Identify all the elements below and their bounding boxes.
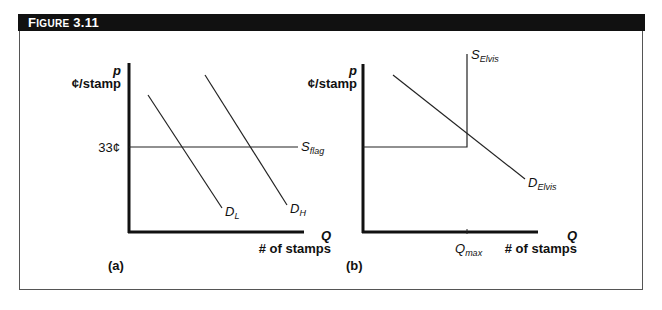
demand-low-label: DL [225,204,239,221]
supply-elvis-line [363,54,467,147]
demand-low-line [148,95,222,208]
y-axis-unit-a: ¢/stamp [72,76,121,91]
panel-a-caption: (a) [108,258,124,273]
x-axis-unit-a: # of stamps [259,241,331,256]
demand-high-line [205,75,287,205]
y-axis-unit-b: ¢/stamp [308,76,357,91]
price-tick-33: 33¢ [98,140,120,155]
demand-elvis-line [393,75,525,179]
panel-a: p ¢/stamp 33¢ Sflag DL DH Q # of stamps … [72,63,331,273]
demand-high-label: DH [290,201,306,218]
supply-elvis-label: SElvis [471,47,499,64]
panel-b-caption: (b) [346,258,363,273]
q-max-label: Qmax [455,241,483,258]
figure-diagrams: p ¢/stamp 33¢ Sflag DL DH Q # of stamps … [0,0,662,310]
panel-b: p ¢/stamp SElvis DElvis Qmax Q # of stam… [308,47,577,273]
demand-elvis-label: DElvis [528,175,557,192]
x-axis-unit-b: # of stamps [505,241,577,256]
supply-flag-label: Sflag [301,139,324,156]
